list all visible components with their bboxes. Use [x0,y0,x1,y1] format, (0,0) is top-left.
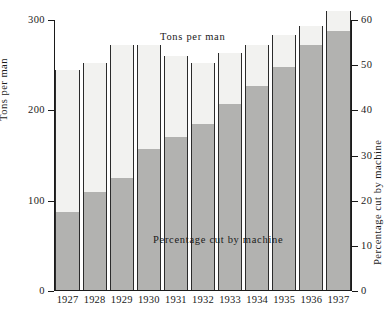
y-axis-right-title: Percentage cut by machine [372,140,383,265]
annotation-tons-per-man: Tons per man [160,31,225,42]
x-tick-label-1937: 1937 [325,295,352,306]
bar-1928 [83,63,107,291]
bar-total-1936 [299,26,323,291]
chart-container: 0100200300 0102030405060 Tons per man Pe… [0,0,390,324]
x-tick-label-1933: 1933 [217,295,244,306]
x-tick-label-1934: 1934 [244,295,271,306]
y-axis-left-title: Tons per man [0,58,9,121]
y-tick-label-left-0: 0 [39,286,45,297]
bar-1930 [137,45,161,291]
bar-total-1930 [137,45,161,291]
plot-area: 0100200300 0102030405060 Tons per man Pe… [54,20,352,291]
bar-total-1928 [83,63,107,291]
bar-1932 [191,63,215,291]
x-tick-label-1936: 1936 [298,295,325,306]
bar-1936 [299,26,323,291]
bar-percentage-1930 [138,149,160,291]
bar-1935 [272,35,296,291]
annotation-percentage-cut-by-machine: Percentage cut by machine [153,234,283,245]
y-tick-label-right-60: 60 [361,15,372,26]
bar-total-1934 [245,45,269,291]
bar-1931 [164,56,188,291]
bar-total-1927 [55,70,79,291]
y-tick-right-40 [352,110,358,111]
bar-total-1935 [272,35,296,291]
x-axis-labels: 1927192819291930193119321933193419351936… [54,295,352,311]
y-tick-label-left-100: 100 [28,195,45,206]
y-tick-left-0 [48,291,54,292]
x-tick-label-1929: 1929 [108,295,135,306]
y-tick-label-right-20: 20 [361,195,372,206]
x-tick-label-1930: 1930 [135,295,162,306]
bar-percentage-1927 [56,212,78,291]
y-tick-label-right-50: 50 [361,60,372,71]
y-tick-label-left-200: 200 [28,105,45,116]
bar-1934 [245,45,269,291]
bar-percentage-1937 [327,31,349,291]
bar-1933 [218,53,242,291]
y-tick-label-left-300: 300 [28,15,45,26]
y-axis-left-line [54,20,55,291]
y-tick-label-right-40: 40 [361,105,372,116]
bar-percentage-1935 [273,67,295,291]
bar-1927 [55,70,79,291]
bar-total-1931 [164,56,188,291]
bar-total-1929 [110,45,134,291]
bar-percentage-1928 [84,192,106,291]
bar-total-1937 [326,11,350,291]
y-tick-right-0 [352,291,358,292]
x-tick-label-1932: 1932 [189,295,216,306]
bar-percentage-1932 [192,124,214,291]
x-tick-label-1931: 1931 [162,295,189,306]
y-tick-right-10 [352,246,358,247]
bar-percentage-1929 [111,178,133,291]
bar-total-1933 [218,53,242,291]
y-tick-left-200 [48,110,54,111]
plot-inner: 0100200300 0102030405060 Tons per man Pe… [54,20,352,291]
y-tick-right-60 [352,20,358,21]
x-tick-label-1928: 1928 [81,295,108,306]
bar-1929 [110,45,134,291]
bar-percentage-1934 [246,86,268,292]
bar-percentage-1936 [300,45,322,291]
y-tick-left-100 [48,201,54,202]
bar-percentage-1931 [165,137,187,291]
y-tick-label-right-30: 30 [361,150,372,161]
bar-percentage-1933 [219,104,241,291]
x-tick-label-1927: 1927 [54,295,81,306]
x-axis-line [54,290,352,291]
y-tick-label-right-0: 0 [361,286,367,297]
x-tick-label-1935: 1935 [271,295,298,306]
bars-layer [54,20,352,291]
y-tick-left-300 [48,20,54,21]
bar-total-1932 [191,63,215,291]
y-tick-label-right-10: 10 [361,241,372,252]
y-tick-right-50 [352,65,358,66]
y-tick-right-30 [352,156,358,157]
bar-1937 [326,11,350,291]
y-tick-right-20 [352,201,358,202]
